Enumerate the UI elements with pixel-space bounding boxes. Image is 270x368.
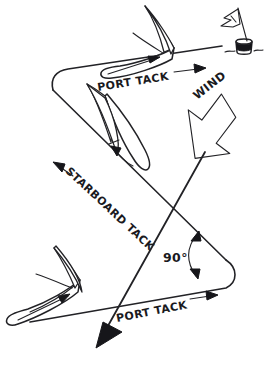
- angle-label: 90°: [163, 250, 188, 265]
- sailing-diagram-container: Beating to windward — tacking diagram WI…: [0, 0, 270, 368]
- buoy-top-rim: [236, 39, 252, 44]
- sailing-tactics-diagram: Beating to windward — tacking diagram WI…: [0, 0, 270, 368]
